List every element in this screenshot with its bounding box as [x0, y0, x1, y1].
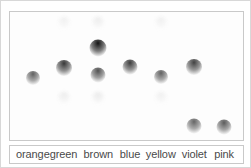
figure-root: orangegreenbrownblueyellowvioletpink [0, 0, 251, 168]
chromatography-plate [9, 11, 244, 141]
legend-label-orange: orange [16, 149, 50, 160]
legend-label-blue: blue [120, 149, 140, 160]
spot-brown-1 [92, 16, 105, 29]
spot-green-2 [56, 60, 72, 76]
spot-violet-1 [186, 59, 202, 75]
spot-green-3 [57, 92, 70, 105]
spot-yellow-2 [154, 70, 168, 84]
lane-legend: orangegreenbrownblueyellowvioletpink [9, 145, 244, 164]
spot-green-1 [57, 16, 70, 29]
spot-brown-3 [91, 68, 106, 83]
spot-violet-2 [187, 118, 202, 133]
spot-brown-4 [92, 92, 105, 105]
legend-label-green: green [50, 149, 78, 160]
legend-label-pink: pink [214, 149, 234, 160]
legend-label-yellow: yellow [146, 149, 176, 160]
spot-blue-1 [122, 60, 137, 75]
spot-yellow-1 [154, 16, 167, 29]
legend-label-violet: violet [182, 149, 207, 160]
legend-label-brown: brown [84, 149, 113, 160]
spot-yellow-3 [154, 92, 167, 105]
spot-brown-2 [90, 40, 107, 57]
spot-orange-1 [26, 71, 40, 85]
spot-pink-1 [217, 120, 232, 135]
